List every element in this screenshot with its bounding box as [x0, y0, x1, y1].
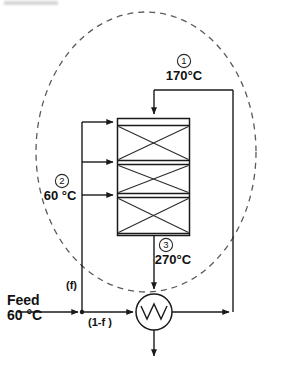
stream-1-temperature: 170°C	[166, 68, 203, 83]
stream-3-tag-number: 3	[163, 239, 168, 250]
reactor-vessel-body	[118, 119, 190, 236]
feed-label: Feed	[7, 292, 40, 308]
process-flow-diagram: 1 170°C 2 60 °C 3 270°C Feed 60 °C (f) (…	[0, 0, 291, 370]
stream-1-tag-number: 1	[181, 55, 186, 66]
heat-exchanger-symbol	[136, 294, 172, 330]
feed-split-junction	[80, 310, 84, 314]
stream-2-tag-number: 2	[59, 175, 64, 186]
flowsheet-canvas: 1 170°C 2 60 °C 3 270°C Feed 60 °C (f) (…	[0, 0, 291, 370]
stream-3-temperature: 270°C	[155, 252, 192, 267]
feed-temperature: 60 °C	[7, 307, 42, 323]
through-fraction-label: (1-f )	[88, 316, 112, 328]
bypass-fraction-label: (f)	[66, 279, 77, 291]
stream-2-temperature: 60 °C	[44, 188, 77, 203]
